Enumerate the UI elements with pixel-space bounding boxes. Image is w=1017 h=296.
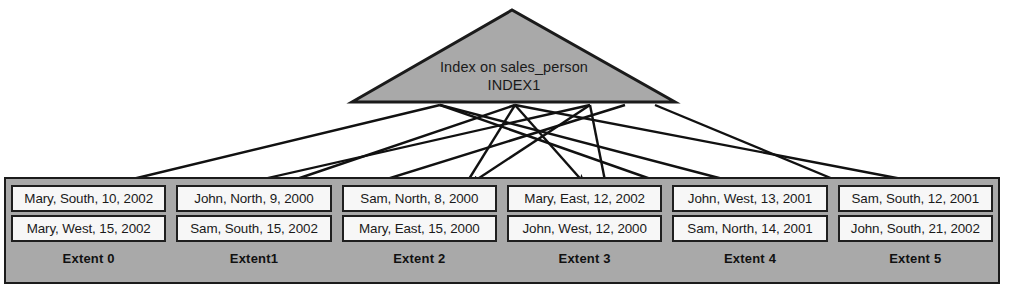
extent-label: Extent 4 — [672, 251, 827, 266]
extent-label: Extent 0 — [11, 251, 166, 266]
data-row-box: John, South, 21, 2002 — [838, 215, 993, 242]
data-row-box: Mary, South, 10, 2002 — [11, 185, 166, 212]
index-pointer-arrow — [515, 105, 928, 184]
index-triangle-label: Index on sales_person INDEX1 — [352, 59, 676, 95]
data-row-box: Sam, North, 14, 2001 — [672, 215, 827, 242]
index-label-line-1: Index on sales_person — [352, 59, 676, 77]
index-pointer-arrow — [112, 105, 440, 184]
data-row-box: John, West, 13, 2001 — [672, 185, 827, 212]
index-label-line-2: INDEX1 — [352, 77, 676, 95]
data-row-box: Mary, West, 15, 2002 — [11, 215, 166, 242]
extent-strip: Mary, South, 10, 2002Mary, West, 15, 200… — [4, 177, 1000, 284]
data-row-box: Sam, South, 15, 2002 — [176, 215, 331, 242]
extent-label: Extent 2 — [342, 251, 497, 266]
extent-label: Extent1 — [176, 251, 331, 266]
index-extent-diagram: Index on sales_person INDEX1 Mary, South… — [0, 0, 1017, 296]
extent-label: Extent 3 — [507, 251, 662, 266]
extent-column: Sam, North, 8, 2000Mary, East, 15, 2000E… — [337, 179, 502, 282]
data-row-box: John, West, 12, 2000 — [507, 215, 662, 242]
extent-column: John, North, 9, 2000Sam, South, 15, 2002… — [171, 179, 336, 282]
extent-column: Sam, South, 12, 2001John, South, 21, 200… — [833, 179, 998, 282]
data-row-box: Sam, South, 12, 2001 — [838, 185, 993, 212]
index-pointer-arrow — [282, 105, 515, 184]
extent-column: Mary, East, 12, 2002John, West, 12, 2000… — [502, 179, 667, 282]
extent-column: Mary, South, 10, 2002Mary, West, 15, 200… — [6, 179, 171, 282]
data-row-box: Sam, North, 8, 2000 — [342, 185, 497, 212]
extent-label: Extent 5 — [838, 251, 993, 266]
index-pointer-arrow — [470, 105, 590, 184]
index-pointer-arrow — [440, 105, 742, 184]
index-pointer-arrow — [515, 105, 585, 184]
data-row-box: Mary, East, 15, 2000 — [342, 215, 497, 242]
extent-column: John, West, 13, 2001Sam, North, 14, 2001… — [667, 179, 832, 282]
data-row-box: Mary, East, 12, 2002 — [507, 185, 662, 212]
data-row-box: John, North, 9, 2000 — [176, 185, 331, 212]
